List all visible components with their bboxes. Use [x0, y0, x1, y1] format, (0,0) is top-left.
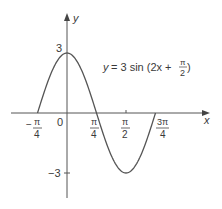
svg-text:3π: 3π — [157, 117, 168, 127]
x-tick-label-pi-over-2: π 2 — [121, 117, 130, 140]
svg-text:π: π — [91, 117, 97, 127]
svg-text:y: y — [102, 61, 110, 73]
svg-text:2: 2 — [180, 68, 185, 78]
y-axis-arrow-icon — [64, 13, 70, 21]
svg-text:π: π — [180, 58, 186, 67]
svg-text:π: π — [122, 117, 128, 127]
equation-label: y = 3 sin (2x + π 2 ) — [102, 58, 191, 78]
svg-text:4: 4 — [160, 129, 166, 140]
x-tick-label-3pi-over-4: 3π 4 — [156, 117, 169, 140]
x-tick-label-minus-pi-over-4: − π 4 — [26, 117, 42, 140]
svg-text:2: 2 — [122, 129, 128, 140]
x-axis-label: x — [203, 114, 210, 126]
svg-text:4: 4 — [91, 129, 97, 140]
y-tick-label-minus-3: −3 — [48, 167, 61, 179]
origin-label: 0 — [57, 116, 63, 128]
y-tick-label-3: 3 — [56, 42, 62, 54]
svg-text:π: π — [34, 117, 40, 127]
x-tick-label-pi-over-4: π 4 — [90, 117, 99, 140]
sine-graph: y x 3 −3 0 − π 4 π 4 π 2 3π 4 y = 3 sin … — [0, 0, 222, 209]
y-axis-label: y — [72, 12, 80, 24]
svg-text:= 3 sin (2x +: = 3 sin (2x + — [111, 61, 172, 73]
svg-text:): ) — [187, 61, 191, 73]
svg-text:−: − — [26, 119, 32, 130]
svg-text:4: 4 — [34, 129, 40, 140]
